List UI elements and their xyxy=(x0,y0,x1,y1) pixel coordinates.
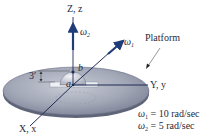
omega2-subscript: 2 xyxy=(87,32,90,38)
given-omega1: ω1 = 10 rad/sec xyxy=(138,109,200,120)
given-omega2: ω2 = 5 rad/sec xyxy=(138,121,195,132)
z-axis-label: Z, z xyxy=(67,4,83,14)
point-b-label: b xyxy=(78,63,83,73)
given-omega2-value: = 5 rad/sec xyxy=(148,120,194,131)
y-axis-label: Y, y xyxy=(150,80,166,90)
point-a xyxy=(72,84,75,87)
omega2-symbol: ω xyxy=(80,26,87,37)
omega1-symbol: ω xyxy=(124,36,131,47)
omega1-subscript: 1 xyxy=(131,42,134,48)
omega2-label: ω2 xyxy=(80,27,90,38)
given-omega1-symbol: ω xyxy=(138,108,145,119)
omega1-label: ω1 xyxy=(124,37,134,48)
point-a-label: a xyxy=(66,79,71,89)
omega1-vector xyxy=(108,41,123,54)
platform-label: Platform xyxy=(145,33,180,43)
x-axis-label: X, x xyxy=(19,124,36,134)
platform-pointer xyxy=(148,48,160,66)
point-b xyxy=(71,70,74,73)
given-omega2-symbol: ω xyxy=(138,120,145,131)
height-dimension-label: 3′ xyxy=(29,71,36,81)
given-omega1-value: = 10 rad/sec xyxy=(148,108,199,119)
